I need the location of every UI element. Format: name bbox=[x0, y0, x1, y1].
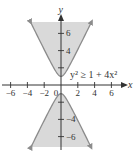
y-tick-label: 4 bbox=[66, 46, 71, 56]
x-tick-label: 2 bbox=[76, 88, 81, 98]
x-tick-label: −2 bbox=[39, 88, 49, 98]
y-tick-label: −6 bbox=[66, 132, 76, 142]
x-axis-label: x bbox=[127, 79, 133, 90]
x-tick-label: −6 bbox=[6, 88, 16, 98]
inequality-label: y² ≥ 1 + 4x² bbox=[70, 69, 117, 80]
y-axis-label: y bbox=[58, 4, 64, 15]
x-tick-label: 4 bbox=[92, 88, 97, 98]
y-tick-label: 6 bbox=[66, 28, 71, 38]
x-tick-label: 0 bbox=[54, 88, 59, 98]
inequality-graph: −6−4−20246 64−4−6 x y y² ≥ 1 + 4x² bbox=[0, 0, 136, 154]
y-tick-label: −4 bbox=[66, 114, 76, 124]
x-tick-label: 6 bbox=[109, 88, 114, 98]
x-tick-label: −4 bbox=[23, 88, 33, 98]
